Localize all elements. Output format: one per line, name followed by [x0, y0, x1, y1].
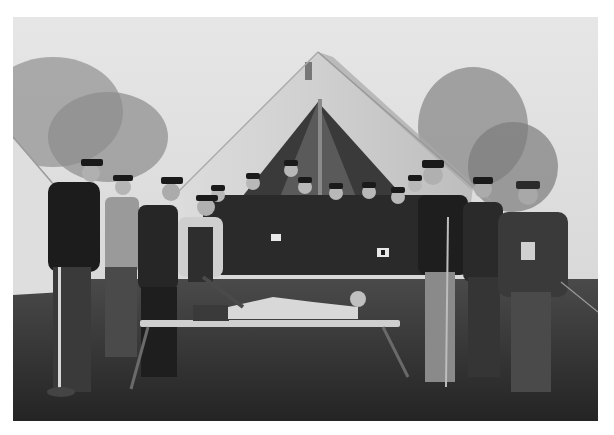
photograph — [13, 17, 598, 421]
grass-ground — [13, 279, 598, 421]
photo-scene — [13, 17, 598, 421]
